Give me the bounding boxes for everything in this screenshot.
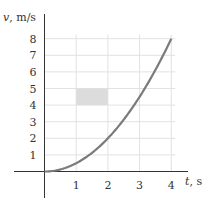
axes <box>14 14 188 198</box>
y-tick-label: 1 <box>30 149 37 162</box>
x-tick-label: 2 <box>104 179 111 192</box>
shaded-rectangle <box>76 89 108 106</box>
y-tick-label: 7 <box>30 49 37 62</box>
y-tick-label: 8 <box>30 33 37 46</box>
grid <box>45 35 176 172</box>
y-axis-label: v, m/s <box>3 11 36 24</box>
y-tick-label: 3 <box>30 116 37 129</box>
x-tick-label: 1 <box>73 179 80 192</box>
x-axis-label: t, s <box>185 175 202 188</box>
y-tick-label: 4 <box>30 99 37 112</box>
y-tick-label: 2 <box>30 132 37 145</box>
x-tick-label: 3 <box>136 179 143 192</box>
x-tick-label: 4 <box>168 179 175 192</box>
y-axis-unit: , m/s <box>9 11 36 24</box>
y-tick-label: 6 <box>30 66 37 79</box>
velocity-time-chart: 123412345678 v, m/s t, s <box>0 0 215 209</box>
y-tick-label: 5 <box>30 83 37 96</box>
tick-labels: 123412345678 <box>30 33 175 192</box>
